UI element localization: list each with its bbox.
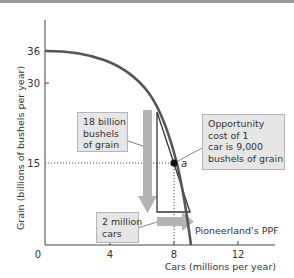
cost-box-leader xyxy=(178,148,202,161)
cars-callout-line: 2 million xyxy=(102,216,133,228)
origin-label: 0 xyxy=(35,249,41,260)
ppf-label: Pioneerland's PPF xyxy=(195,225,279,236)
x-axis-title: Cars (millions per year) xyxy=(165,261,276,272)
cost-callout-line: Opportunity xyxy=(208,118,279,130)
point-a-marker xyxy=(170,159,177,166)
y-axis-title: Grain (billions of bushels per year) xyxy=(15,66,26,230)
grain-change-callout: 18 billion bushels of grain xyxy=(77,112,128,152)
cost-callout-line: bushels of grain xyxy=(208,153,279,165)
grain-change-arrow-shaft xyxy=(143,110,152,198)
point-a-label: a xyxy=(181,158,187,169)
cars-change-arrow-shaft xyxy=(157,217,183,226)
grain-callout-line: bushels xyxy=(83,128,122,140)
y-tick-label-30: 30 xyxy=(27,78,40,89)
cars-change-callout: 2 million cars xyxy=(96,212,139,243)
cost-callout-line: cost of 1 xyxy=(208,130,279,142)
grain-callout-line: of grain xyxy=(83,139,122,151)
y-tick-label-15: 15 xyxy=(27,158,40,169)
grain-change-arrow-head xyxy=(138,196,157,213)
cars-callout-line: cars xyxy=(102,228,133,240)
opportunity-cost-callout: Opportunity cost of 1 car is 9,000 bushe… xyxy=(202,114,285,170)
cost-callout-line: car is 9,000 xyxy=(208,141,279,153)
x-tick-label-4: 4 xyxy=(107,249,113,260)
y-tick-label-36: 36 xyxy=(27,46,40,57)
x-tick-label-12: 12 xyxy=(232,249,245,260)
grain-callout-line: 18 billion xyxy=(83,116,122,128)
x-tick-label-8: 8 xyxy=(171,249,177,260)
